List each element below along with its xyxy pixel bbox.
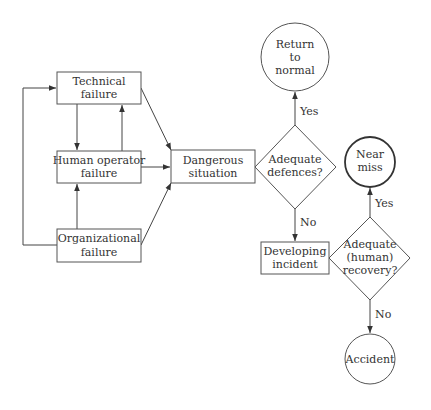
edge-label-recovery-yes: Yes [374,197,394,210]
edge-label-recovery-no: No [375,308,392,321]
decision-label: Adequate [267,153,321,166]
node-label: incident [272,258,318,271]
decision-label: (human) [347,251,394,264]
outcome-accident: Accident [345,334,395,384]
decision-adequate-human-recovery: Adequate (human) recovery? [329,217,410,300]
node-organizational-failure: Organizational failure [57,229,141,262]
node-dangerous-situation: Dangerous situation [171,150,255,183]
node-label: failure [81,88,118,101]
edge-label-defences-yes: Yes [299,105,319,118]
node-label: failure [81,167,118,180]
node-human-operator-failure: Human operator failure [53,151,146,183]
node-label: Organizational [58,232,141,245]
decision-adequate-defences: Adequate defences? [255,125,336,209]
outcome-label: normal [275,64,315,77]
edge-technical-to-dangerous [141,88,171,150]
edge-organizational-to-dangerous [141,183,171,245]
outcome-label: miss [357,161,383,174]
node-label: failure [81,246,118,259]
node-technical-failure: Technical failure [57,72,141,104]
outcome-label: to [289,51,300,64]
node-label: Human operator [53,154,146,167]
node-developing-incident: Developing incident [261,242,329,274]
node-label: Developing [264,245,327,258]
decision-label: defences? [267,166,323,179]
outcome-return-to-normal: Return to normal [261,23,329,91]
node-label: situation [189,167,238,180]
node-label: Technical [72,75,126,88]
decision-label: recovery? [343,264,398,277]
outcome-label: Return [276,38,315,51]
decision-label: Adequate [342,238,396,251]
edge-label-defences-no: No [300,216,317,229]
outcome-label: Accident [345,353,395,366]
outcome-near-miss: Near miss [345,137,395,187]
node-label: Dangerous [183,154,244,167]
incident-flow-diagram: Technical failure Human operator failure… [0,0,431,410]
outcome-label: Near [356,148,385,161]
